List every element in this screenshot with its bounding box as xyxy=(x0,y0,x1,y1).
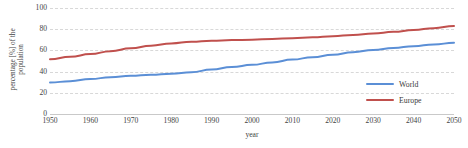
legend-label: Europe xyxy=(399,96,422,105)
axis-baseline xyxy=(50,114,454,115)
line-chart-figure: percentage [%] of the population 0204060… xyxy=(0,0,468,148)
x-axis-tick-label: 2000 xyxy=(232,116,272,126)
y-axis-title-line-1: percentage [%] of the xyxy=(9,28,17,90)
x-axis-tick-labels: 1950196019701980199020002010202020302040… xyxy=(50,116,454,128)
y-axis-tick-label: 40 xyxy=(26,68,47,76)
y-axis-tick-label: 80 xyxy=(26,25,47,33)
x-axis-tick-label: 2040 xyxy=(394,116,434,126)
x-axis-tick-label: 1950 xyxy=(30,116,70,126)
x-axis-tick-label: 2050 xyxy=(434,116,468,126)
y-axis-tick-label: 60 xyxy=(26,46,47,54)
x-axis-tick-label: 2010 xyxy=(272,116,312,126)
legend-label: World xyxy=(399,80,418,89)
x-axis-tick-label: 1960 xyxy=(70,116,110,126)
x-axis-tick-label: 1970 xyxy=(111,116,151,126)
chart-legend: WorldEurope xyxy=(366,76,456,108)
legend-item-europe[interactable]: Europe xyxy=(366,92,456,108)
legend-item-world[interactable]: World xyxy=(366,76,456,92)
x-axis-tick-label: 2030 xyxy=(353,116,393,126)
x-axis-tick-label: 1990 xyxy=(192,116,232,126)
y-axis-tick-label: 20 xyxy=(26,89,47,97)
y-axis-tick-label: 100 xyxy=(26,4,47,12)
series-line-europe xyxy=(50,26,454,59)
y-axis-title-line-2: population xyxy=(17,28,25,90)
y-axis-tick-labels: 020406080100 xyxy=(26,8,47,114)
legend-swatch-icon xyxy=(366,99,394,101)
legend-swatch-icon xyxy=(366,83,394,85)
x-axis-title: year xyxy=(50,130,454,140)
x-axis-tick-label: 1980 xyxy=(151,116,191,126)
x-axis-tick-label: 2020 xyxy=(313,116,353,126)
